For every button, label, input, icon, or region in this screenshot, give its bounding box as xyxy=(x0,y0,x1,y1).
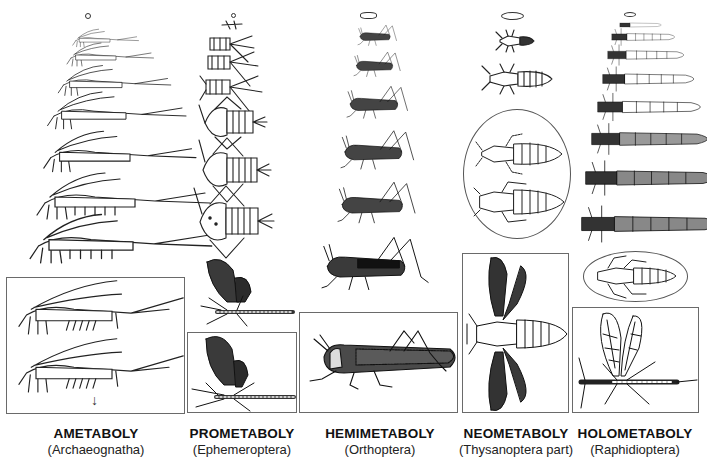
holometaboly-title: HOLOMETABOLY xyxy=(565,425,705,442)
prometaboly-title: PROMETABOLY xyxy=(172,425,312,442)
hemimetaboly-title: HEMIMETABOLY xyxy=(310,425,450,442)
ametaboly-label: AMETABOLY (Archaeognatha) xyxy=(26,425,166,458)
prometaboly-label: PROMETABOLY (Ephemeroptera) xyxy=(172,425,312,458)
hemimetaboly-adult-frame xyxy=(299,312,458,413)
prometaboly-adult-frame xyxy=(187,332,297,413)
snakefly-pupa-icon xyxy=(584,252,689,303)
snakefly-larva-icon xyxy=(0,0,707,250)
neometaboly-adult-frame xyxy=(462,253,569,413)
mayfly-imago-icon xyxy=(188,333,298,414)
thrips-adult-icon xyxy=(463,254,570,414)
ametaboly-taxon: (Archaeognatha) xyxy=(26,442,166,458)
holometaboly-pupa-ellipse xyxy=(583,251,688,302)
holometaboly-adult-frame xyxy=(572,307,699,413)
grasshopper-adult-icon xyxy=(300,313,459,414)
ametaboly-title: AMETABOLY xyxy=(26,425,166,442)
holometaboly-label: HOLOMETABOLY (Raphidioptera) xyxy=(565,425,705,458)
hemimetaboly-label: HEMIMETABOLY (Orthoptera) xyxy=(310,425,450,458)
holometaboly-taxon: (Raphidioptera) xyxy=(565,442,705,458)
prometaboly-taxon: (Ephemeroptera) xyxy=(172,442,312,458)
continue-molting-arrow-icon: ↓ xyxy=(91,392,98,408)
hemimetaboly-taxon: (Orthoptera) xyxy=(310,442,450,458)
snakefly-adult-icon xyxy=(573,308,700,414)
